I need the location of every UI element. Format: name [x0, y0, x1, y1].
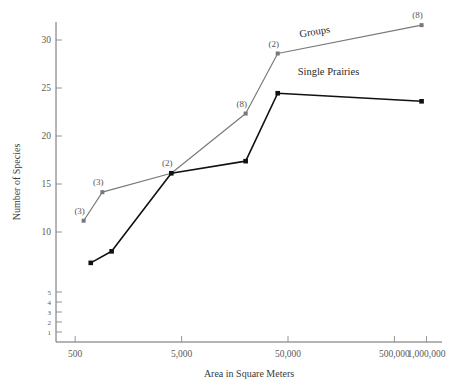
point-count-label: (3)	[74, 206, 85, 216]
series-label-single-prairies: Single Prairies	[298, 66, 360, 77]
chart-canvas: 302520151054321 5005,00050,000500,0001,0…	[0, 0, 454, 388]
y-tick-label: 4	[48, 299, 52, 307]
y-tick-label: 25	[42, 83, 52, 93]
data-point	[419, 99, 424, 104]
y-tick-label: 3	[48, 309, 52, 317]
point-count-label: (2)	[268, 39, 279, 49]
y-tick-label: 5	[48, 289, 52, 297]
point-count-label: (2)	[162, 158, 173, 168]
data-point	[276, 52, 280, 56]
y-tick-label: 20	[42, 131, 52, 141]
x-tick-label: 500	[68, 349, 83, 359]
point-count-label: (3)	[93, 177, 104, 187]
data-point	[82, 219, 86, 223]
x-tick-label: 5,000	[171, 349, 193, 359]
x-tick-label: 500,000	[379, 349, 410, 359]
point-count-label: (8)	[412, 10, 423, 20]
data-point	[88, 261, 93, 266]
data-point	[420, 23, 424, 27]
data-point	[169, 171, 174, 176]
point-count-label: (8)	[236, 99, 247, 109]
data-point	[109, 249, 114, 254]
data-point	[244, 112, 248, 116]
data-point	[275, 91, 280, 96]
x-tick-label: 50,000	[275, 349, 301, 359]
species-area-chart: 302520151054321 5005,00050,000500,0001,0…	[0, 0, 454, 388]
chart-background	[0, 0, 454, 388]
y-tick-label: 10	[42, 227, 52, 237]
y-tick-label: 15	[42, 179, 52, 189]
y-axis-title: Number of Species	[11, 144, 22, 221]
y-tick-label: 2	[48, 319, 52, 327]
data-point	[243, 159, 248, 164]
x-tick-label: 1,000,000	[407, 349, 445, 359]
y-tick-label: 30	[42, 35, 52, 45]
data-point	[100, 190, 104, 194]
y-tick-label: 1	[48, 329, 52, 337]
x-axis-title: Area in Square Meters	[204, 368, 294, 379]
